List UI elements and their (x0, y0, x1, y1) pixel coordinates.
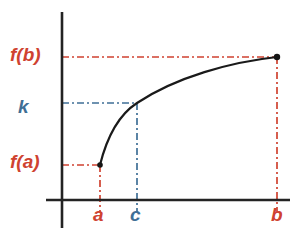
function-curve (100, 57, 277, 165)
endpoint-dot-a (97, 162, 103, 168)
y-label-k: k (18, 97, 29, 116)
y-label-f-of-a: f(a) (10, 152, 40, 171)
endpoint-dot-b (274, 54, 280, 60)
x-label-a: a (93, 205, 104, 224)
ivt-plot-canvas (0, 0, 304, 246)
y-label-f-of-b: f(b) (10, 45, 41, 64)
x-label-b: b (271, 205, 283, 224)
x-label-c: c (130, 205, 141, 224)
ivt-figure: f(b) k f(a) a c b (0, 0, 304, 246)
